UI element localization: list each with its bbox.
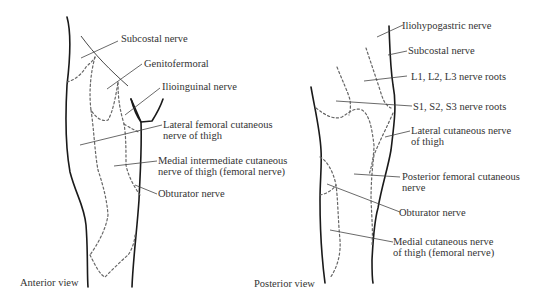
label-iliohypogastric: Iliohypogastric nerve (402, 20, 492, 31)
leader-ilioinguinal (125, 88, 160, 115)
anterior-dermatome-boundary (67, 57, 95, 82)
label-lateral-cutaneous: Lateral cutaneous nerve of thigh (411, 125, 514, 147)
anterior-view-label: Anterior view (20, 277, 79, 288)
leader-posterior-femoral (354, 174, 400, 177)
label-obturator: Obturator nerve (158, 188, 225, 199)
label-subcostal: Subcostal nerve (121, 33, 188, 44)
label-medial-intermediate: Medial intermediate cutaneous nerve of t… (158, 155, 290, 178)
label-lumbar-roots: L1, L2, L3 nerve roots (411, 71, 506, 82)
anterior-medial-outline (131, 99, 141, 287)
label-lateral-femoral: Lateral femoral cutaneous nerve of thigh (163, 119, 275, 141)
label-genitofemoral: Genitofermoral (144, 58, 209, 69)
label-posterior-obturator: Obturator nerve (399, 207, 466, 218)
leader-lumbar-roots (364, 76, 407, 81)
anterior-dermatome-boundary (90, 57, 118, 121)
anterior-dermatome-boundary (118, 82, 140, 195)
label-sacral-roots: S1, S2, S3 nerve roots (413, 101, 506, 112)
leader-lateral-cutaneous (385, 131, 410, 137)
posterior-view-label: Posterior view (254, 278, 315, 289)
anterior-dermatome-boundary (90, 110, 108, 255)
label-posterior-femoral: Posterior femoral cutaneous nerve (402, 171, 522, 193)
posterior-dermatome-boundary (316, 108, 374, 175)
leader-obturator (135, 185, 157, 194)
anterior-dermatome-boundary (90, 235, 135, 277)
posterior-dermatome-boundary (337, 67, 350, 115)
anterior-lateral-outline (66, 17, 88, 287)
leader-sacral-roots (336, 101, 412, 106)
label-posterior-subcostal: Subcostal nerve (408, 45, 475, 56)
dermatome-diagram: Subcostal nerve Genitofermoral Ilioingui… (0, 0, 552, 308)
posterior-view: Iliohypogastric nerve Subcostal nerve L1… (254, 20, 522, 289)
leader-medial-intermediate (114, 161, 157, 166)
label-ilioinguinal: Ilioinguinal nerve (162, 81, 237, 92)
anterior-dermatome-boundary (124, 124, 140, 133)
posterior-lateral-outline (311, 87, 325, 283)
posterior-medial-outline (372, 26, 395, 283)
anterior-view: Subcostal nerve Genitofermoral Ilioingui… (20, 17, 290, 288)
label-medial-cutaneous: Medial cutaneous nerve of thigh (femoral… (393, 236, 496, 259)
leader-genitofemoral (107, 64, 142, 89)
leader-lateral-femoral (80, 125, 162, 145)
